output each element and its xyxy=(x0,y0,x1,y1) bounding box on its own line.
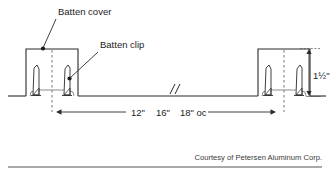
break-slash-2 xyxy=(175,84,180,94)
batten-cover-leader-line xyxy=(43,19,56,48)
left-batten-assembly xyxy=(26,49,78,112)
callout-batten-clip: Batten clip xyxy=(67,39,144,81)
batten-clip-leader-line xyxy=(70,52,98,78)
batten-cover-leader-dot xyxy=(41,46,45,50)
batten-clip-label: Batten clip xyxy=(100,39,144,50)
height-dimension: 1½" xyxy=(300,49,330,97)
height-arrowhead-down xyxy=(306,91,311,96)
spacing-label-18-oc: 18" oc xyxy=(180,107,207,118)
batten-clip-leader-dot xyxy=(67,76,71,80)
batten-cover-label: Batten cover xyxy=(58,6,111,17)
diagram-canvas: 1½" 12" 16" 18" oc Batten cover Batten xyxy=(0,0,330,179)
spacing-label-12: 12" xyxy=(131,107,145,118)
spacing-label-16: 16" xyxy=(156,107,170,118)
batten-clip-right xyxy=(263,65,273,96)
clip-fin-left xyxy=(33,65,39,95)
spacing-arrowhead-right xyxy=(271,109,277,114)
batten-clip-left xyxy=(31,65,41,96)
credit-text: Courtesy of Petersen Aluminum Corp. xyxy=(195,153,322,162)
height-dimension-label: 1½" xyxy=(313,70,330,81)
clip-fin-right xyxy=(265,65,271,95)
break-symbol xyxy=(170,84,180,94)
right-batten-assembly xyxy=(258,49,310,112)
clip-fin-right-inner xyxy=(296,65,302,95)
break-slash-1 xyxy=(170,84,175,94)
spacing-arrowhead-left xyxy=(56,109,62,114)
batten-seam-diagram: 1½" 12" 16" 18" oc Batten cover Batten xyxy=(0,0,330,179)
height-arrowhead-up xyxy=(306,49,311,54)
spacing-dimension: 12" 16" 18" oc xyxy=(56,107,276,118)
credit-block: Courtesy of Petersen Aluminum Corp. xyxy=(8,153,322,167)
